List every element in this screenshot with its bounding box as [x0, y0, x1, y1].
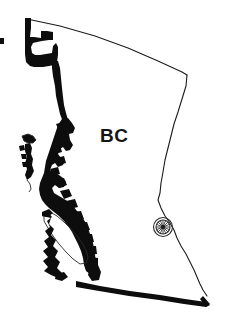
left-edge-tick — [0, 38, 4, 44]
compass-rose-marker[interactable] — [154, 218, 173, 237]
compass-rose-icon-hub — [161, 225, 165, 229]
map-background — [0, 0, 230, 325]
bc-outline-map: BC — [0, 0, 230, 325]
map-canvas: BC — [0, 0, 230, 325]
page-title: BC — [100, 125, 128, 146]
